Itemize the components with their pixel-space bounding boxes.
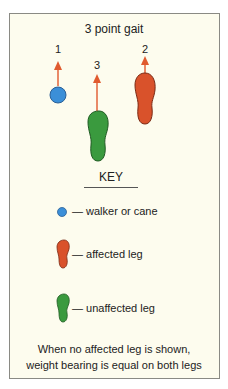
key-title: KEY <box>86 170 136 184</box>
key-affected-leg-icon <box>57 240 69 268</box>
unaffected-leg-footprint-icon <box>88 111 108 161</box>
arrow-up-icon-step-3 <box>93 74 101 111</box>
arrow-up-icon-step-2 <box>141 56 149 73</box>
key-walker-cane-icon <box>58 208 67 217</box>
gait-illustration <box>0 0 228 389</box>
arrow-up-icon-step-1 <box>54 61 62 86</box>
affected-leg-footprint-icon <box>135 73 155 124</box>
note-line-2: weight bearing is equal on both legs <box>0 357 228 373</box>
key-label-walker-cane: — walker or cane <box>72 205 158 217</box>
key-label-affected-leg: — affected leg <box>72 248 143 260</box>
key-unaffected-leg-icon <box>57 294 69 322</box>
walker-cane-icon <box>50 87 66 103</box>
note-line-1: When no affected leg is shown, <box>0 341 228 357</box>
key-underline <box>84 187 138 188</box>
key-label-unaffected-leg: — unaffected leg <box>72 302 155 314</box>
